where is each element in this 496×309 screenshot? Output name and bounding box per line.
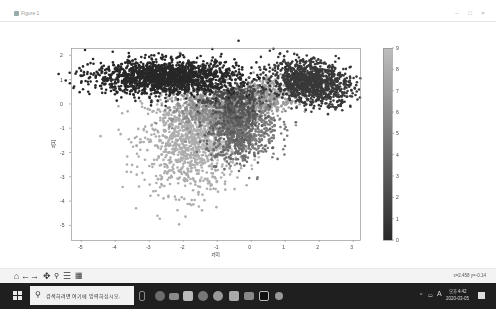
x-tick-label: 2 <box>316 244 319 250</box>
tray-chevron-icon[interactable]: ^ <box>420 292 422 298</box>
home-icon[interactable]: ⌂ <box>12 271 21 281</box>
colorbar-tick-label: 4 <box>396 152 399 158</box>
y-tick-label: 1 <box>60 77 63 83</box>
back-arrow-icon[interactable]: ← <box>21 271 30 281</box>
photos-icon[interactable] <box>229 291 239 301</box>
x-tick-label: 3 <box>350 244 353 250</box>
y-tick-label: -5 <box>60 222 64 228</box>
y-tick-label: -4 <box>60 198 64 204</box>
figure-icon <box>14 11 19 16</box>
file-explorer-icon[interactable] <box>244 292 254 300</box>
save-icon[interactable]: ▦ <box>74 271 83 281</box>
maximize-button[interactable]: □ <box>465 10 475 16</box>
y-axis-label: z[1] <box>50 140 56 148</box>
network-icon[interactable]: ▭ <box>428 292 433 298</box>
figure-window: Figure 1 – □ × -5-4-3-2-10123210-1-2-3-4… <box>0 0 496 283</box>
colorbar-tick-label: 1 <box>396 216 399 222</box>
x-tick-label: -4 <box>112 244 116 250</box>
windows-start-icon[interactable] <box>13 291 22 300</box>
colorbar-tick-label: 9 <box>396 45 399 51</box>
cursor-coordinates: x=2.458 y=-0.14 <box>453 273 486 278</box>
notification-icon[interactable] <box>478 292 485 299</box>
forward-arrow-icon[interactable]: → <box>30 271 39 281</box>
minimize-button[interactable]: – <box>452 10 462 16</box>
plot-area[interactable]: -5-4-3-2-10123210-1-2-3-4-5z[0]z[1]01234… <box>0 22 496 268</box>
store-icon[interactable] <box>183 291 193 301</box>
taskbar-search-box[interactable]: ⚲ 검색하려면 여기에 입력하십시오. <box>30 286 134 305</box>
colorbar-tick-label: 5 <box>396 130 399 136</box>
internet-explorer-icon[interactable] <box>213 291 223 301</box>
terminal-icon[interactable] <box>259 291 269 301</box>
scatter-plot-canvas[interactable] <box>0 22 496 268</box>
chrome-icon[interactable] <box>198 291 208 301</box>
window-title: Figure 1 <box>21 10 39 16</box>
y-tick-label: -2 <box>60 150 64 156</box>
navigation-toolbar: ⌂ ← → ✥ ⚲ ☰ ▦ x=2.458 y=-0.14 <box>0 268 496 283</box>
title-bar[interactable]: Figure 1 – □ × <box>0 8 496 22</box>
python-icon[interactable] <box>275 292 283 300</box>
x-tick-label: -3 <box>146 244 150 250</box>
colorbar-tick-label: 7 <box>396 88 399 94</box>
edge-icon[interactable] <box>155 291 165 301</box>
y-tick-label: -3 <box>60 174 64 180</box>
close-button[interactable]: × <box>478 10 488 16</box>
colorbar-tick-label: 0 <box>396 237 399 243</box>
colorbar-tick-label: 8 <box>396 66 399 72</box>
x-tick-label: 0 <box>248 244 251 250</box>
x-tick-label: -5 <box>78 244 82 250</box>
mail-icon[interactable] <box>169 293 179 300</box>
x-axis-label: z[0] <box>212 251 220 257</box>
y-tick-label: 2 <box>60 52 63 58</box>
y-tick-label: -1 <box>60 125 64 131</box>
y-tick-label: 0 <box>60 101 63 107</box>
search-placeholder: 검색하려면 여기에 입력하십시오. <box>46 292 120 299</box>
colorbar-tick-label: 6 <box>396 109 399 115</box>
taskbar: ⚲ 검색하려면 여기에 입력하십시오. ^ ▭ A 오후 4:42 2020-0… <box>0 283 496 309</box>
x-tick-label: -2 <box>180 244 184 250</box>
pan-icon[interactable]: ✥ <box>42 271 51 281</box>
search-icon: ⚲ <box>35 290 41 299</box>
x-tick-label: 1 <box>282 244 285 250</box>
colorbar-tick-label: 2 <box>396 194 399 200</box>
zoom-icon[interactable]: ⚲ <box>52 271 61 281</box>
task-view-icon[interactable] <box>139 291 145 301</box>
ime-indicator[interactable]: A <box>437 290 442 297</box>
configure-subplots-icon[interactable]: ☰ <box>62 271 71 281</box>
colorbar-tick-label: 3 <box>396 173 399 179</box>
taskbar-clock[interactable]: 오후 4:42 2020-03-05 <box>446 288 469 302</box>
x-tick-label: -1 <box>214 244 218 250</box>
